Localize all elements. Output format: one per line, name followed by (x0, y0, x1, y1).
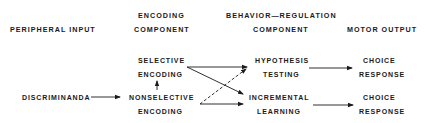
arrow-nonselective-to-hypothesis-dashed (200, 69, 246, 104)
arrow-selective-to-incremental (187, 67, 243, 94)
arrow-layer (0, 0, 427, 123)
